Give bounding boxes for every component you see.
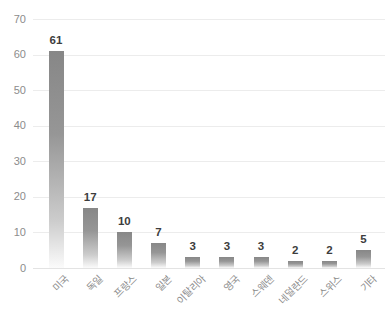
bar-value-label: 2: [312, 244, 346, 257]
gridline: [33, 126, 385, 127]
bar-chart: 010203040506070 6117107333225 미국독일프랑스일본이…: [0, 0, 388, 316]
gridline: [33, 19, 385, 20]
y-axis-tick-label: 60: [0, 49, 26, 60]
bar-value-label: 10: [107, 215, 141, 228]
x-axis-category-label: 미국: [50, 273, 71, 294]
bar-value-label: 3: [244, 240, 278, 253]
x-axis-category-label: 스위스: [317, 273, 344, 300]
x-axis-category-label: 스웨덴: [249, 273, 276, 300]
gridline: [33, 268, 385, 269]
bar-value-label: 7: [142, 226, 176, 239]
gridline: [33, 161, 385, 162]
x-axis-category-label: 프랑스: [112, 273, 139, 300]
gridline: [33, 55, 385, 56]
bar: [322, 261, 337, 268]
bar-value-label: 5: [347, 233, 381, 246]
bar-value-label: 2: [278, 244, 312, 257]
bar: [219, 257, 234, 268]
y-axis-tick-label: 0: [0, 263, 26, 274]
bar: [117, 232, 132, 268]
x-axis-category-label: 네덜란드: [277, 273, 310, 306]
bottom-edge-artifact-line: [300, 311, 388, 312]
bar: [356, 250, 371, 268]
bar-value-label: 17: [73, 191, 107, 204]
x-axis-category-label: 이탈리아: [174, 273, 207, 306]
x-axis-category-label: 일본: [153, 273, 174, 294]
y-axis-tick-label: 30: [0, 156, 26, 167]
x-axis-category-label: 영국: [221, 273, 242, 294]
bar: [49, 51, 64, 268]
bar-value-label: 61: [39, 34, 73, 47]
bar-value-label: 3: [210, 240, 244, 253]
bar: [83, 208, 98, 268]
bar: [151, 243, 166, 268]
x-axis-category-label: 독일: [84, 273, 105, 294]
bar-value-label: 3: [176, 240, 210, 253]
bar: [288, 261, 303, 268]
bar: [185, 257, 200, 268]
bar: [254, 257, 269, 268]
y-axis-tick-label: 70: [0, 14, 26, 25]
y-axis-tick-label: 40: [0, 120, 26, 131]
y-axis-tick-label: 50: [0, 85, 26, 96]
y-axis-tick-label: 10: [0, 227, 26, 238]
x-axis-category-label: 기타: [358, 273, 379, 294]
gridline: [33, 90, 385, 91]
y-axis-tick-label: 20: [0, 191, 26, 202]
